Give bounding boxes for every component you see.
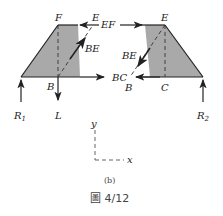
reaction-r1-label: R1	[13, 110, 26, 123]
free-body-diagram: F E EF BE B L R1 E BE BC B C R2 y x (	[0, 0, 223, 216]
coordinate-axes: y x	[90, 118, 133, 165]
reaction-r2-label: R2	[196, 110, 210, 123]
point-e-left-label: E	[91, 12, 100, 23]
right-truss-section: E BE BC B C R2	[111, 12, 210, 123]
left-shaded-region	[21, 25, 80, 77]
point-b-left-label: B	[46, 81, 54, 92]
figure-caption: 圖 4/12	[90, 192, 129, 205]
load-l-label: L	[54, 110, 62, 121]
y-axis-label: y	[90, 118, 97, 129]
point-b-right-label: B	[124, 82, 132, 93]
force-be-right-label: BE	[121, 50, 137, 61]
x-axis-label: x	[127, 154, 133, 165]
point-e-right-label: E	[160, 12, 169, 23]
subfigure-label: (b)	[104, 176, 115, 185]
force-ef-label: EF	[100, 19, 116, 30]
point-c-label: C	[161, 82, 169, 93]
left-truss-section: F E EF BE B L R1	[13, 12, 116, 123]
right-shaded-region	[145, 25, 203, 77]
point-f-label: F	[54, 12, 63, 23]
force-be-left-label: BE	[84, 43, 100, 54]
